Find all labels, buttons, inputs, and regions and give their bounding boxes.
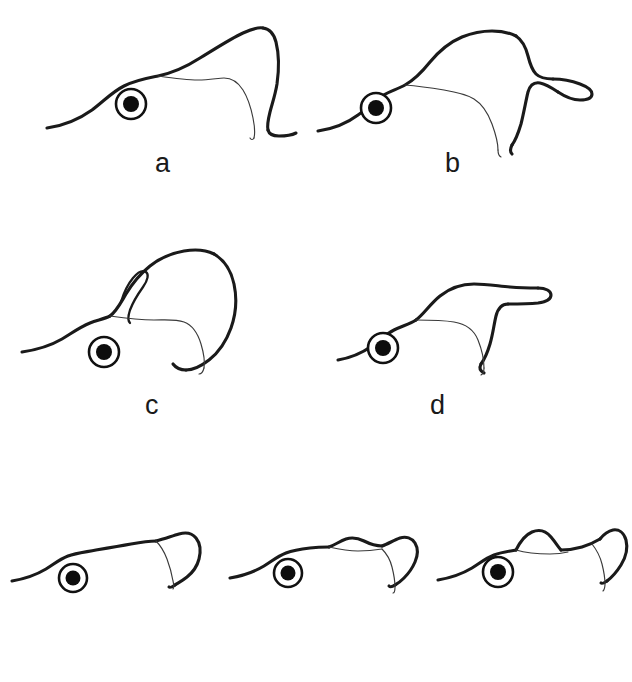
panel-a-posterior-margin bbox=[263, 28, 278, 130]
panel-e-inner-line bbox=[156, 541, 174, 589]
panel-e-posterior-loop bbox=[156, 533, 200, 585]
panel-f: f bbox=[222, 505, 427, 615]
panel-f-loop-tip bbox=[389, 585, 395, 587]
panel-c-dome bbox=[186, 254, 236, 370]
panel-label-b: b bbox=[445, 150, 460, 177]
panel-g: g bbox=[432, 502, 632, 617]
panel-f-drawing bbox=[222, 505, 427, 615]
panel-e: e bbox=[0, 505, 215, 615]
eye-pupil-icon bbox=[281, 566, 296, 581]
panel-d-posterior-projection bbox=[508, 288, 551, 304]
panel-g-mid-dorsal bbox=[561, 539, 600, 550]
panel-b: b bbox=[310, 0, 632, 200]
panel-e-drawing bbox=[0, 505, 215, 615]
panel-d-inner-line bbox=[416, 320, 484, 368]
panel-c-inner-line-tip bbox=[199, 368, 204, 374]
panel-c: c bbox=[0, 240, 320, 420]
panel-a-ventral-foot bbox=[268, 130, 296, 136]
panel-g-drawing bbox=[432, 502, 632, 617]
panel-a: a bbox=[0, 0, 320, 200]
panel-a-dorsal-anterior-contour bbox=[47, 28, 263, 128]
panel-c-drawing bbox=[0, 240, 320, 420]
panel-label-a: a bbox=[155, 150, 170, 177]
panel-b-ventral-posterior bbox=[512, 83, 558, 145]
panel-b-dorsal-contour bbox=[318, 31, 516, 131]
panel-b-drawing bbox=[310, 0, 632, 200]
eye-pupil-icon bbox=[368, 100, 384, 116]
eye-pupil-icon bbox=[490, 564, 506, 580]
panel-g-dorsal-bump bbox=[516, 531, 561, 550]
panel-f-low-swelling bbox=[329, 538, 382, 547]
panel-f-posterior-loop bbox=[382, 537, 417, 585]
panel-c-inner-line bbox=[110, 316, 204, 368]
panel-label-d: d bbox=[430, 392, 445, 419]
panel-b-inner-line bbox=[405, 85, 498, 150]
panel-d: d bbox=[320, 240, 632, 420]
panel-c-posterior-end bbox=[173, 364, 186, 370]
eye-pupil-icon bbox=[96, 344, 112, 360]
eye-pupil-icon bbox=[123, 96, 139, 112]
panel-d-dorsal-ridge bbox=[416, 284, 538, 320]
panel-label-c: c bbox=[145, 392, 159, 419]
panel-d-ventral-posterior bbox=[481, 304, 508, 364]
eye-pupil-icon bbox=[375, 340, 391, 356]
panel-a-inner-line bbox=[158, 76, 255, 138]
panel-b-ventral-tip bbox=[511, 145, 513, 154]
panel-a-inner-line-tip bbox=[250, 138, 254, 140]
figure-root: a b c bbox=[0, 0, 632, 682]
panel-b-shoulder bbox=[516, 36, 553, 79]
eye-pupil-icon bbox=[66, 571, 81, 586]
panel-d-drawing bbox=[320, 240, 632, 420]
panel-f-swelling-base-line bbox=[329, 547, 382, 551]
panel-g-loop-tip bbox=[601, 581, 607, 583]
panel-c-dorsal-rise bbox=[110, 250, 214, 316]
panel-b-inner-line-tip bbox=[498, 150, 501, 157]
panel-b-posterior-lobe bbox=[553, 79, 592, 100]
